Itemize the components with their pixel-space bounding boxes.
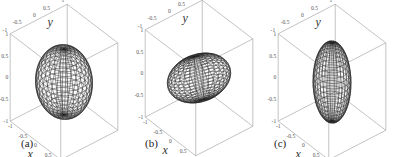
z-tick: -0.5 xyxy=(0,96,8,102)
y-tick: 0 xyxy=(33,12,36,18)
plot-a: -1-0.500.5110.50-0.5-1-1-0.500.51yzx xyxy=(0,0,133,157)
x-tick: 0.5 xyxy=(313,152,320,157)
y-tick: 0 xyxy=(168,8,171,14)
z-tick: 1 xyxy=(140,27,143,33)
y-axis-label: y xyxy=(182,11,189,25)
x-tick: -1 xyxy=(8,123,13,129)
plot-c: -1-0.500.5110.50-0.5-1-1-0.500.51yzx xyxy=(266,0,399,157)
x-tick: 0 xyxy=(302,142,305,148)
x-tick: -0.5 xyxy=(286,133,295,139)
y-tick: 0.5 xyxy=(311,5,318,11)
panel-label-a: (a) xyxy=(21,137,33,149)
z-tick: 0 xyxy=(273,74,276,80)
ellipsoid-mesh xyxy=(313,41,351,123)
x-tick: 0 xyxy=(34,142,37,148)
ellipsoid-mesh xyxy=(36,45,93,120)
y-tick: 0 xyxy=(301,12,304,18)
z-tick: 0 xyxy=(5,74,8,80)
x-tick: -1 xyxy=(143,119,148,125)
z-tick: -0.5 xyxy=(267,96,276,102)
y-tick: -0.5 xyxy=(281,19,290,25)
ellipsoid-mesh xyxy=(167,53,231,103)
x-tick: -1 xyxy=(276,123,281,129)
z-tick: 1 xyxy=(273,31,276,37)
z-tick: -0.5 xyxy=(134,92,143,98)
z-tick: 0.5 xyxy=(1,53,8,59)
y-axis-label: y xyxy=(315,15,322,29)
z-tick: 0.5 xyxy=(269,53,276,59)
panel-b: -1-0.500.5110.50-0.5-1-1-0.500.51yzx (b) xyxy=(133,0,266,157)
y-tick: 1 xyxy=(329,0,332,3)
panel-a: -1-0.500.5110.50-0.5-1-1-0.500.51yzx (a) xyxy=(0,0,133,157)
z-tick: 1 xyxy=(5,31,8,37)
y-tick: -0.5 xyxy=(148,15,157,21)
panel-c: -1-0.500.5110.50-0.5-1-1-0.500.51yzx (c) xyxy=(266,0,399,157)
panel-label-b: (b) xyxy=(145,137,158,149)
y-tick: 0.5 xyxy=(178,1,185,7)
y-tick: 0.5 xyxy=(43,5,50,11)
x-axis-label: x xyxy=(294,147,301,157)
z-tick: 0.5 xyxy=(136,49,143,55)
x-axis-label: x xyxy=(161,143,168,157)
z-tick: 0 xyxy=(140,70,143,76)
y-tick: 1 xyxy=(61,0,64,3)
x-tick: 0.5 xyxy=(45,152,52,157)
y-tick: -0.5 xyxy=(13,19,22,25)
x-tick: -0.5 xyxy=(153,129,162,135)
panel-label-c: (c) xyxy=(274,137,286,149)
x-tick: 0 xyxy=(169,138,172,144)
y-axis-label: y xyxy=(47,15,54,29)
x-tick: 0.5 xyxy=(180,148,187,154)
plot-b: -1-0.500.5110.50-0.5-1-1-0.500.51yzx xyxy=(133,0,266,157)
